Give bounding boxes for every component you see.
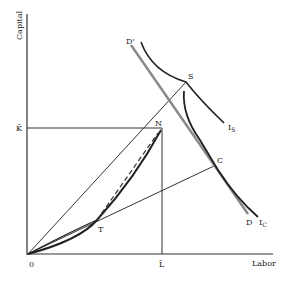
lower-curve xyxy=(28,220,97,254)
budget-line-bottom-label: D xyxy=(246,218,252,227)
production-diagram: Capital Labor 0 K̄ L̄ S N C T D' D IS IC xyxy=(0,0,289,283)
budget-line-top-label: D' xyxy=(126,37,135,46)
isoquant-c xyxy=(184,91,258,217)
k-bar-label: K̄ xyxy=(16,124,23,133)
isoquant-c-label: IC xyxy=(259,218,267,228)
origin-label: 0 xyxy=(29,260,34,269)
y-axis-label: Capital xyxy=(15,10,24,40)
point-c-label: C xyxy=(217,156,223,165)
l-bar-label: L̄ xyxy=(159,260,165,269)
x-axis-label: Labor xyxy=(252,259,276,268)
point-n-label: N xyxy=(155,119,162,128)
isoquant-s-label: IS xyxy=(228,123,235,133)
isoquant-s xyxy=(141,42,224,123)
ray-origin-c xyxy=(28,166,214,254)
point-t-label: T xyxy=(98,225,104,234)
contract-curve xyxy=(28,130,161,254)
point-s-label: S xyxy=(188,72,193,81)
